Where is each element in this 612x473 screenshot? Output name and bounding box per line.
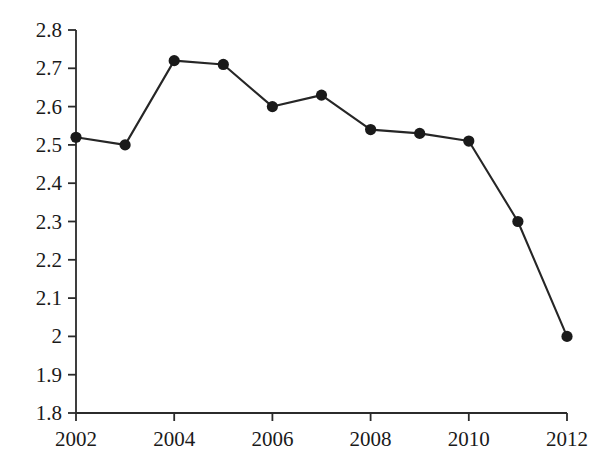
data-point-marker bbox=[169, 55, 180, 66]
chart-axes bbox=[76, 30, 567, 413]
data-point-marker bbox=[414, 128, 425, 139]
data-point-marker bbox=[561, 331, 572, 342]
x-axis-tick-label: 2012 bbox=[546, 427, 588, 451]
y-axis-tick-label: 2.4 bbox=[36, 171, 63, 195]
chart-plot-area: 1.81.922.12.22.32.42.52.62.72.8200220042… bbox=[0, 0, 612, 473]
y-axis-tick-label: 2.1 bbox=[36, 286, 62, 310]
y-axis-tick-label: 2.7 bbox=[36, 56, 62, 80]
y-axis-tick-label: 2.8 bbox=[36, 18, 62, 42]
x-axis-tick-label: 2006 bbox=[251, 427, 293, 451]
data-point-marker bbox=[316, 90, 327, 101]
data-series-line bbox=[76, 61, 567, 337]
data-point-marker bbox=[512, 216, 523, 227]
x-axis-tick-label: 2008 bbox=[350, 427, 392, 451]
y-axis-tick-label: 2 bbox=[52, 324, 63, 348]
x-axis-tick-label: 2004 bbox=[153, 427, 196, 451]
y-axis-tick-label: 2.3 bbox=[36, 210, 62, 234]
data-point-marker bbox=[218, 59, 229, 70]
x-axis-tick-label: 2010 bbox=[448, 427, 490, 451]
data-point-marker bbox=[267, 101, 278, 112]
y-axis-tick-label: 1.9 bbox=[36, 363, 62, 387]
data-point-marker bbox=[120, 139, 131, 150]
data-point-marker bbox=[365, 124, 376, 135]
line-chart: 1.81.922.12.22.32.42.52.62.72.8200220042… bbox=[0, 0, 612, 473]
data-point-marker bbox=[463, 135, 474, 146]
data-point-marker bbox=[70, 132, 81, 143]
y-axis-tick-label: 2.5 bbox=[36, 133, 62, 157]
x-axis-tick-label: 2002 bbox=[55, 427, 97, 451]
y-axis-tick-label: 2.6 bbox=[36, 95, 62, 119]
y-axis-tick-label: 2.2 bbox=[36, 248, 62, 272]
y-axis-tick-label: 1.8 bbox=[36, 401, 62, 425]
